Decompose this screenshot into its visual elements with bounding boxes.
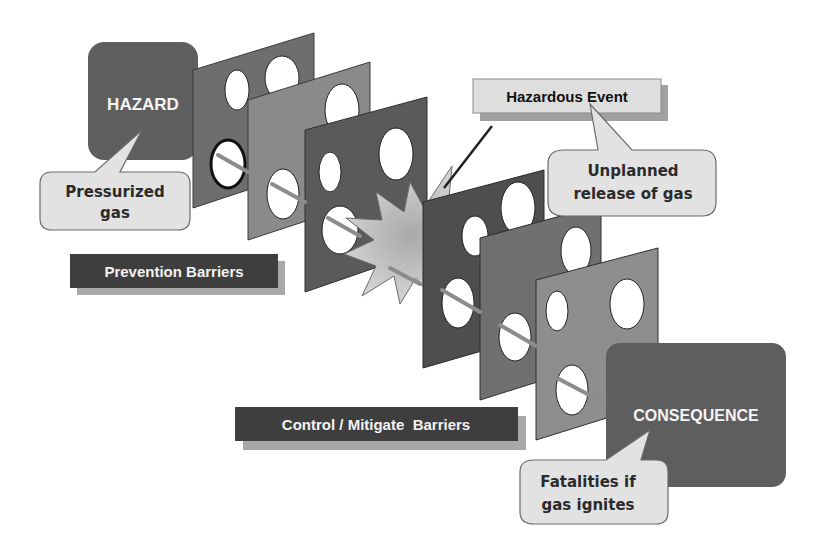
svg-text:Pressurized: Pressurized: [65, 183, 164, 201]
svg-text:Control / Mitigate Barriers: Control / Mitigate Barriers: [282, 416, 470, 433]
prevention-barriers-banner: Prevention Barriers: [70, 254, 285, 295]
svg-text:release of gas: release of gas: [573, 185, 692, 203]
swiss-cheese-diagram: HAZARD Pressurized gas: [0, 0, 823, 556]
svg-text:Fatalities if: Fatalities if: [540, 473, 636, 491]
consequence-label: CONSEQUENCE: [633, 407, 759, 424]
hazard-box: HAZARD: [88, 42, 198, 160]
svg-text:Hazardous Event: Hazardous Event: [506, 88, 628, 105]
svg-text:gas: gas: [100, 204, 130, 222]
svg-text:Prevention Barriers: Prevention Barriers: [104, 263, 243, 280]
hazard-label: HAZARD: [107, 95, 179, 114]
svg-text:gas ignites: gas ignites: [542, 496, 635, 514]
hazardous-event-label: Hazardous Event: [473, 79, 668, 121]
event-pointer-line: [444, 126, 492, 188]
aligned-hole: [211, 140, 245, 188]
consequence-callout: Fatalities if gas ignites: [520, 430, 668, 524]
svg-text:Unplanned: Unplanned: [587, 162, 678, 180]
mitigation-barriers-banner: Control / Mitigate Barriers: [235, 407, 526, 450]
